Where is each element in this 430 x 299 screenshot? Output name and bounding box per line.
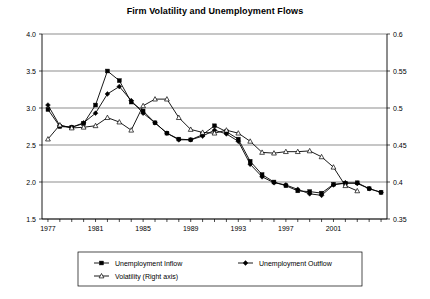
y-axis-left-tick-label: 3.5	[26, 68, 36, 75]
y-axis-left-tick-label: 4.0	[26, 31, 36, 38]
data-point-marker	[106, 69, 110, 73]
y-axis-left-tick-label: 2.0	[26, 179, 36, 186]
x-axis-ticks: 1977198119851989199319972001	[40, 219, 381, 232]
x-axis-tick-label: 1993	[231, 225, 247, 232]
data-point-marker	[94, 103, 98, 107]
x-axis-tick-label: 2001	[326, 225, 342, 232]
series-1	[46, 84, 384, 198]
data-point-marker	[46, 103, 51, 108]
x-axis-tick-label: 1981	[88, 225, 104, 232]
data-point-marker	[319, 154, 324, 158]
data-point-marker	[248, 139, 253, 143]
data-point-marker	[105, 115, 110, 119]
y-axis-left-tick-label: 3.0	[26, 105, 36, 112]
y-axis-right-tick-label: 0.35	[393, 216, 407, 223]
chart-container: Firm Volatility and Unemployment Flows 1…	[0, 0, 430, 299]
legend-label: Unemployment Inflow	[115, 260, 183, 268]
y-axis-left-ticks: 1.52.02.53.03.54.0	[26, 31, 42, 223]
data-point-marker	[105, 92, 110, 97]
y-axis-right-ticks: 0.350.40.450.50.550.6	[387, 31, 407, 223]
y-axis-right-tick-label: 0.4	[393, 179, 403, 186]
series-line	[48, 87, 381, 196]
series-group	[46, 69, 384, 198]
x-axis-tick-label: 1977	[40, 225, 56, 232]
y-axis-right-tick-label: 0.5	[393, 105, 403, 112]
x-axis-tick-label: 1997	[278, 225, 294, 232]
data-point-marker	[213, 124, 217, 128]
data-point-marker	[117, 79, 121, 83]
y-axis-right-tick-label: 0.55	[393, 68, 407, 75]
x-axis-tick-label: 1989	[183, 225, 199, 232]
chart-plot: 1977198119851989199319972001 1.52.02.53.…	[0, 0, 430, 299]
legend-label: Unemployment Outflow	[259, 260, 333, 268]
x-axis-tick-label: 1985	[135, 225, 151, 232]
y-axis-right-tick-label: 0.6	[393, 31, 403, 38]
y-axis-left-tick-label: 2.5	[26, 142, 36, 149]
y-axis-left-tick-label: 1.5	[26, 216, 36, 223]
data-point-marker	[93, 123, 98, 127]
chart-legend: Unemployment InflowUnemployment OutflowV…	[78, 252, 362, 286]
legend-label: Volatility (Right axis)	[115, 273, 178, 281]
y-axis-right-tick-label: 0.45	[393, 142, 407, 149]
legend-swatch-marker	[100, 261, 104, 265]
data-point-marker	[141, 103, 146, 107]
legend-box	[78, 252, 362, 286]
data-point-marker	[129, 128, 134, 132]
